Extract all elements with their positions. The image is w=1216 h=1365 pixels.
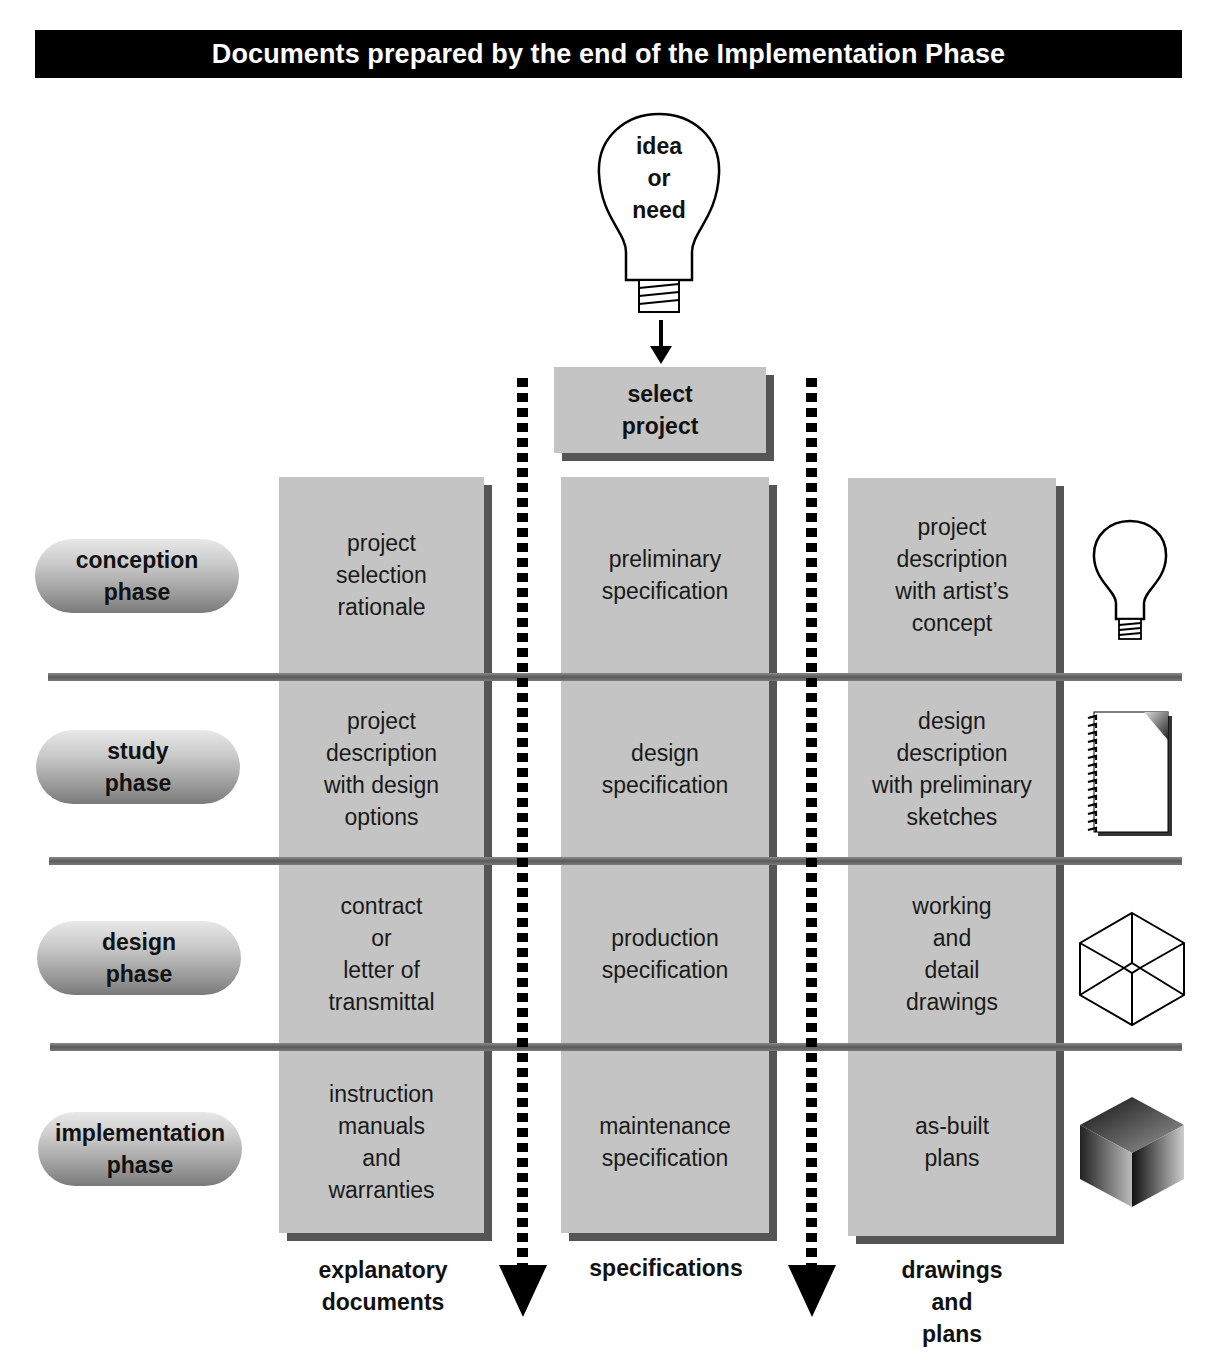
column-label-drawings-and-plans: drawingsandplans — [852, 1254, 1052, 1350]
flow-arrow-down-icon — [499, 1265, 547, 1317]
cell-implementation-explanatory: instructionmanualsandwarranties — [279, 1051, 484, 1233]
cell-implementation-specification: maintenancespecification — [561, 1051, 769, 1233]
arrow-down-icon — [650, 320, 672, 364]
select-box-line: select — [622, 378, 699, 410]
solid-cube-icon — [1078, 1095, 1186, 1209]
idea-or-need-label: idea or need — [596, 130, 722, 226]
bulb-label-line: idea — [596, 130, 722, 162]
column-shadow — [856, 1236, 1064, 1244]
diagram-title: Documents prepared by the end of the Imp… — [35, 30, 1182, 78]
cell-design-drawings: workinganddetaildrawings — [848, 865, 1056, 1043]
cell-study-drawings: designdescriptionwith preliminarysketche… — [848, 681, 1056, 857]
select-project-box: select project — [554, 367, 766, 453]
cell-study-specification: designspecification — [561, 681, 769, 857]
cell-design-specification: productionspecification — [561, 865, 769, 1043]
select-box-line: project — [622, 410, 699, 442]
notepad-icon — [1086, 710, 1178, 842]
phase-pill-conception: conceptionphase — [35, 539, 239, 613]
bulb-label-line: or — [596, 162, 722, 194]
select-box-shadow — [562, 453, 774, 461]
cell-conception-drawings: projectdescriptionwith artist’sconcept — [848, 480, 1056, 670]
row-separator — [50, 1043, 1182, 1051]
cell-conception-explanatory: projectselectionrationale — [279, 480, 484, 670]
cell-implementation-drawings: as-builtplans — [848, 1051, 1056, 1233]
cell-study-explanatory: projectdescriptionwith designoptions — [279, 681, 484, 857]
column-label-explanatory-documents: explanatorydocuments — [283, 1254, 483, 1318]
lightbulb-icon — [1092, 519, 1168, 643]
bulb-label-line: need — [596, 194, 722, 226]
column-shadow — [569, 1233, 777, 1241]
phase-pill-study: studyphase — [36, 730, 240, 804]
dotted-flow-line-right — [806, 378, 817, 1268]
flow-arrow-down-icon — [788, 1265, 836, 1317]
dotted-flow-line-left — [517, 378, 528, 1268]
column-label-specifications: specifications — [566, 1252, 766, 1284]
select-box-shadow — [766, 375, 774, 461]
row-separator — [49, 857, 1182, 865]
row-separator — [48, 673, 1182, 681]
cell-conception-specification: preliminaryspecification — [561, 480, 769, 670]
column-shadow — [1056, 486, 1064, 1244]
wireframe-cube-icon — [1078, 911, 1186, 1027]
column-shadow — [287, 1233, 492, 1241]
cell-design-explanatory: contractorletter oftransmittal — [279, 865, 484, 1043]
phase-pill-implementation: implementationphase — [38, 1112, 242, 1186]
phase-pill-design: designphase — [37, 921, 241, 995]
